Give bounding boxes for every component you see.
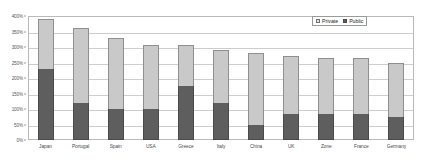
stacked-bar-chart: 0%50%100%150%200%250%300%350%400% JapanP… — [0, 0, 424, 162]
y-tick-label: 400% — [12, 14, 23, 19]
bar-slot[interactable] — [309, 16, 344, 140]
x-tick-label: Germany — [387, 144, 406, 150]
bar-segment-private[interactable] — [353, 58, 369, 114]
bar-segment-private[interactable] — [248, 53, 264, 124]
bar-segment-public[interactable] — [38, 69, 54, 140]
y-tick-mark — [24, 16, 26, 17]
bar-segment-public[interactable] — [388, 117, 404, 140]
bar-segment-private[interactable] — [283, 56, 299, 113]
y-tick-mark — [24, 47, 26, 48]
y-tick-mark — [24, 140, 26, 141]
bar-stack[interactable] — [73, 28, 89, 140]
legend-label: Private — [322, 18, 338, 24]
public-swatch — [343, 19, 347, 23]
bar-stack[interactable] — [38, 19, 54, 140]
bar-segment-public[interactable] — [318, 114, 334, 140]
bar-segment-private[interactable] — [213, 50, 229, 103]
y-tick-label: 50% — [14, 122, 23, 127]
bar-segment-private[interactable] — [73, 28, 89, 102]
bar-slot[interactable] — [344, 16, 379, 140]
y-tick-label: 150% — [12, 91, 23, 96]
bar-slot[interactable] — [133, 16, 168, 140]
chart-legend: PrivatePublic — [312, 16, 367, 26]
x-tick-label: USA — [146, 144, 156, 150]
bar-segment-private[interactable] — [318, 58, 334, 114]
bar-stack[interactable] — [283, 56, 299, 140]
bar-slot[interactable] — [239, 16, 274, 140]
legend-label: Public — [349, 18, 363, 24]
bar-slot[interactable] — [274, 16, 309, 140]
y-tick-mark — [24, 78, 26, 79]
bar-segment-public[interactable] — [213, 103, 229, 140]
bar-stack[interactable] — [213, 50, 229, 140]
x-tick-label: Zone — [321, 144, 332, 150]
y-tick-mark — [24, 93, 26, 94]
bar-segment-public[interactable] — [143, 109, 159, 140]
bar-segment-public[interactable] — [73, 103, 89, 140]
x-axis: JapanPortugalSpainUSAGreeceItalyChinaUKZ… — [28, 142, 414, 156]
x-tick-label: Italy — [217, 144, 226, 150]
y-tick-label: 350% — [12, 29, 23, 34]
x-tick-label: Greece — [178, 144, 193, 150]
bar-stack[interactable] — [248, 53, 264, 140]
x-tick-label: Japan — [39, 144, 52, 150]
bar-segment-private[interactable] — [388, 63, 404, 117]
bar-segment-public[interactable] — [108, 109, 124, 140]
bar-stack[interactable] — [178, 45, 194, 140]
bar-segment-public[interactable] — [178, 86, 194, 140]
y-tick-label: 300% — [12, 45, 23, 50]
x-tick-label: China — [250, 144, 262, 150]
legend-entry[interactable]: Public — [343, 18, 363, 24]
y-tick-mark — [24, 109, 26, 110]
legend-entry[interactable]: Private — [316, 18, 338, 24]
bar-slot[interactable] — [63, 16, 98, 140]
bar-slot[interactable] — [28, 16, 63, 140]
bar-slot[interactable] — [98, 16, 133, 140]
y-tick-mark — [24, 124, 26, 125]
bar-stack[interactable] — [353, 58, 369, 140]
bar-stack[interactable] — [143, 45, 159, 140]
bars-layer — [28, 16, 414, 140]
x-tick-label: Portugal — [72, 144, 89, 150]
x-tick-label: France — [354, 144, 369, 150]
bar-segment-public[interactable] — [353, 114, 369, 140]
private-swatch — [316, 19, 320, 23]
bar-segment-private[interactable] — [178, 45, 194, 85]
bar-slot[interactable] — [203, 16, 238, 140]
bar-slot[interactable] — [168, 16, 203, 140]
y-tick-label: 250% — [12, 60, 23, 65]
bar-stack[interactable] — [388, 63, 404, 141]
x-tick-label: Spain — [110, 144, 122, 150]
y-axis: 0%50%100%150%200%250%300%350%400% — [0, 16, 26, 140]
y-tick-label: 100% — [12, 107, 23, 112]
bar-segment-private[interactable] — [143, 45, 159, 109]
bar-segment-private[interactable] — [38, 19, 54, 69]
bar-stack[interactable] — [108, 38, 124, 140]
y-tick-mark — [24, 62, 26, 63]
bar-segment-public[interactable] — [283, 114, 299, 140]
bar-slot[interactable] — [379, 16, 414, 140]
bar-segment-private[interactable] — [108, 38, 124, 109]
bar-segment-public[interactable] — [248, 125, 264, 141]
y-tick-label: 200% — [12, 76, 23, 81]
y-tick-label: 0% — [17, 138, 23, 143]
x-tick-label: UK — [288, 144, 295, 150]
bar-stack[interactable] — [318, 58, 334, 140]
y-tick-mark — [24, 31, 26, 32]
